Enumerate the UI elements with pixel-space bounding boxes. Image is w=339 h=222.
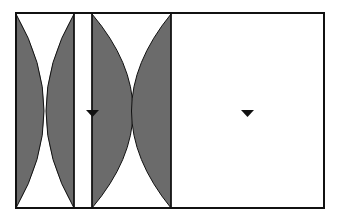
diagram-canvas (0, 0, 339, 222)
lens-shape (16, 14, 44, 208)
lens-group-left (16, 14, 74, 208)
lens-group-middle (92, 14, 171, 208)
lens-shape (92, 14, 133, 208)
water-level-marker-right-icon (241, 110, 254, 117)
lens-shape (46, 14, 74, 208)
lens-shape (132, 14, 172, 208)
